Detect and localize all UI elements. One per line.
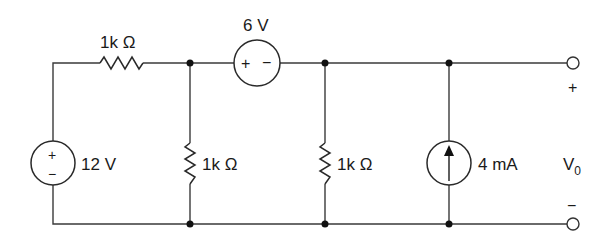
shunt-resistor-1: 1k Ω <box>185 143 237 184</box>
voltage-source-6v: + − 6 V <box>234 16 280 86</box>
plus-sign: + <box>48 147 56 163</box>
circuit-diagram: 1k Ω + − 6 V + − 12 V 1k Ω 1k Ω 4 mA <box>0 0 599 248</box>
shunt-resistor-1-label: 1k Ω <box>202 155 237 174</box>
terminal-plus <box>567 57 579 69</box>
shunt-resistor-2-label: 1k Ω <box>337 155 372 174</box>
output-minus-sign: − <box>567 197 576 214</box>
voltage-source-12v: + − 12 V <box>31 141 117 185</box>
output-voltage-label: V0 <box>563 155 581 178</box>
minus-sign: − <box>48 166 56 182</box>
plus-sign: + <box>241 55 250 72</box>
minus-sign: − <box>262 54 271 71</box>
series-resistor: 1k Ω <box>100 33 143 69</box>
arrow-up-icon <box>444 145 454 156</box>
series-resistor-label: 1k Ω <box>100 33 135 52</box>
voltage-source-6v-label: 6 V <box>243 16 269 35</box>
wires <box>53 63 568 224</box>
terminal-minus <box>567 218 579 230</box>
current-source: 4 mA <box>427 141 518 185</box>
output-plus-sign: + <box>568 79 577 96</box>
shunt-resistor-2: 1k Ω <box>320 143 372 184</box>
voltage-source-12v-label: 12 V <box>81 155 117 174</box>
junctions <box>187 60 453 228</box>
current-source-label: 4 mA <box>478 155 518 174</box>
output-terminals: + − V0 <box>563 57 581 230</box>
